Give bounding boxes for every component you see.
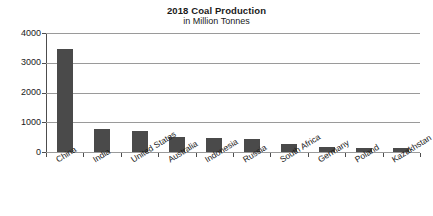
y-axis-tick-label: 2000 bbox=[1, 88, 41, 97]
y-axis-tick-label: 3000 bbox=[1, 58, 41, 67]
y-axis-tick-label: 0 bbox=[1, 148, 41, 157]
gridline bbox=[46, 33, 420, 34]
y-axis-tick-mark bbox=[42, 63, 46, 64]
y-axis-tick-mark bbox=[42, 33, 46, 34]
x-axis-tick-mark bbox=[158, 153, 159, 157]
y-axis-tick-label: 4000 bbox=[1, 29, 41, 38]
y-axis-labels: 01000200030004000 bbox=[0, 0, 41, 216]
coal-production-bar-chart: 2018 Coal Production in Million Tonnes 0… bbox=[0, 0, 433, 216]
x-axis-tick-mark bbox=[420, 153, 421, 157]
chart-title-block: 2018 Coal Production in Million Tonnes bbox=[0, 5, 433, 27]
y-axis-tick-mark bbox=[42, 93, 46, 94]
plot-area bbox=[46, 33, 420, 152]
page-title: 2018 Coal Production bbox=[0, 5, 433, 16]
gridline bbox=[46, 122, 420, 123]
bar bbox=[57, 49, 73, 152]
x-axis-tick-mark bbox=[270, 153, 271, 157]
x-axis-tick-mark bbox=[196, 153, 197, 157]
x-axis-tick-mark bbox=[383, 153, 384, 157]
chart-subtitle: in Million Tonnes bbox=[0, 16, 433, 27]
gridline bbox=[46, 63, 420, 64]
x-axis-tick-mark bbox=[83, 153, 84, 157]
y-axis-tick-mark bbox=[42, 122, 46, 123]
gridline bbox=[46, 93, 420, 94]
y-axis-tick-label: 1000 bbox=[1, 118, 41, 127]
x-axis-tick-mark bbox=[46, 153, 47, 157]
x-axis-tick-mark bbox=[121, 153, 122, 157]
x-axis-tick-mark bbox=[345, 153, 346, 157]
x-axis-tick-mark bbox=[308, 153, 309, 157]
x-axis-tick-mark bbox=[233, 153, 234, 157]
